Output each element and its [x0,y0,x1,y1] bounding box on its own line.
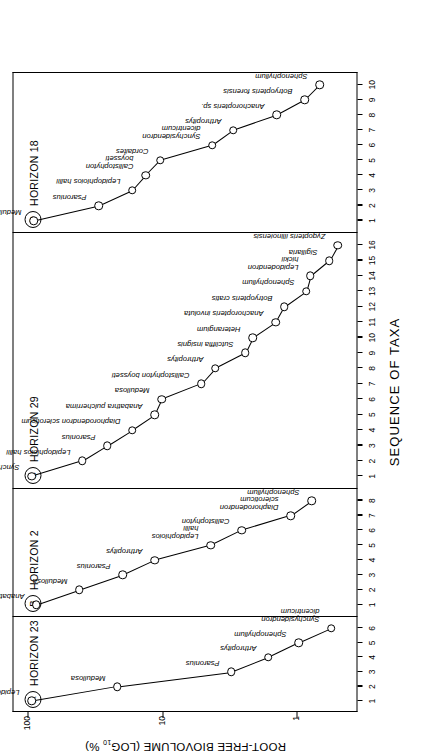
data-point[interactable] [31,601,40,610]
x-axis-tick-label: 5 [367,158,376,163]
data-point[interactable] [196,380,205,389]
x-axis-tick-label: 3 [367,670,376,675]
data-point[interactable] [271,318,280,327]
x-axis-tick [357,259,362,260]
data-point[interactable] [157,395,166,404]
x-axis-tick-label: 2 [367,459,376,464]
data-point-label: Medullosa [70,674,105,682]
data-point[interactable] [150,410,159,419]
x-axis-tick [357,99,362,100]
data-point[interactable] [127,186,136,195]
data-point-label: Arthropitys [184,117,220,125]
data-point[interactable] [141,171,150,180]
data-point-label: Sphenophyllum [247,488,299,496]
data-point[interactable] [240,349,249,358]
x-axis-tick-label: 12 [367,302,376,311]
data-point[interactable] [279,303,288,312]
x-axis-tick-label: 3 [367,188,376,193]
data-point[interactable] [263,653,272,662]
y-axis-tick-label: 100 [23,716,32,730]
y-axis-label: ROOT-FREE BIOVOLUME (LOG10 %) [84,739,285,753]
data-point[interactable] [29,216,38,225]
line-segment [233,115,277,131]
data-point[interactable] [324,256,333,265]
x-axis-tick [357,499,362,500]
x-axis-tick [357,671,362,672]
x-axis-tick-label: 4 [367,655,376,660]
data-point[interactable] [300,96,309,105]
data-point[interactable] [150,556,159,565]
line-segment [160,145,212,161]
data-point[interactable] [210,364,219,373]
data-point-label: Lepidophloios hallii [152,524,199,540]
data-point-label: Diaphorodendron scleroticum [20,417,119,425]
data-point-label: Diaphorodendron scleroticum [219,495,278,511]
data-point[interactable] [207,141,216,150]
data-point[interactable] [94,201,103,210]
data-point-label: Psaronius [61,433,95,441]
x-axis-tick [357,352,362,353]
x-axis-tick-label: 9 [367,351,376,356]
data-point[interactable] [248,333,257,342]
data-point[interactable] [333,241,342,250]
x-axis-tick [357,144,362,145]
data-point[interactable] [286,511,295,520]
x-axis-tick-label: 2 [367,684,376,689]
data-point-label: Botryopteris forensis [223,87,292,95]
data-point[interactable] [237,526,246,535]
data-point-label: Anabathra pulcherrima [0,592,24,600]
x-axis-tick-label: 4 [367,428,376,433]
data-point[interactable] [272,111,281,120]
data-point[interactable] [306,272,315,281]
data-point-label: Sphenophyllum [255,72,307,80]
line-segment [162,383,202,399]
x-axis-tick-label: 1 [367,602,376,607]
x-axis-tick-label: 7 [367,128,376,133]
data-point-label: Sphenophyllum [234,630,286,638]
data-point[interactable] [118,571,127,580]
x-axis-label: SEQUENCE OF TAXA [386,318,401,467]
data-point[interactable] [75,586,84,595]
line-segment [34,205,100,221]
data-point[interactable] [77,457,86,466]
figure-root: ROOT-FREE BIOVOLUME (LOG10 %) SEQUENCE O… [0,0,431,756]
x-axis-tick-label: 3 [367,443,376,448]
x-axis-tick-label: 8 [367,366,376,371]
x-axis-tick-label: 5 [367,543,376,548]
panel-title: HORIZON 23 [27,620,39,686]
data-point[interactable] [228,126,237,135]
x-axis-tick-label: 8 [367,498,376,503]
data-point-label: Psaronius [53,193,87,201]
x-axis-tick [357,114,362,115]
data-point[interactable] [103,441,112,450]
data-point[interactable] [155,156,164,165]
x-axis-tick [357,642,362,643]
x-axis-tick-label: 6 [367,143,376,148]
data-point[interactable] [127,426,136,435]
data-point-label: Synchysidendron dicentricum [260,607,318,623]
data-point[interactable] [27,472,36,481]
panel-c: CHORIZON 2912345678910111213141516Synchy… [12,232,357,488]
data-point-label: Zygopteris illinoiensis [253,232,325,240]
panel-title: HORIZON 18 [27,140,39,206]
x-axis-tick [357,290,362,291]
data-point-label: Anabathra pulcherrima [66,402,143,410]
data-point[interactable] [301,287,310,296]
data-point-label: Lepidophloios hallii [6,448,70,456]
x-axis-tick-label: 15 [367,256,376,265]
data-point[interactable] [315,81,324,90]
data-point[interactable] [27,697,36,706]
x-axis-tick [357,383,362,384]
x-axis-tick [357,189,362,190]
data-point[interactable] [294,639,303,648]
x-axis-tick [357,174,362,175]
data-point[interactable] [112,682,121,691]
x-axis-tick-label: 5 [367,412,376,417]
data-point[interactable] [227,668,236,677]
data-point-label: Lepidophloios hallii [55,178,119,186]
data-point[interactable] [307,496,316,505]
data-point[interactable] [326,624,335,633]
x-axis-tick [357,321,362,322]
data-point[interactable] [206,541,215,550]
x-axis-tick-label: 11 [367,318,376,327]
